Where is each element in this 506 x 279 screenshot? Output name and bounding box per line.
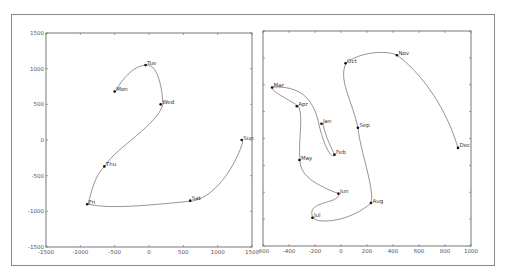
right-point-label: Mar bbox=[274, 82, 285, 88]
right-point-label: Aug bbox=[372, 198, 383, 205]
right-x-tick-label: 1000 bbox=[464, 248, 478, 254]
left-y-tick-label: 1500 bbox=[30, 30, 44, 36]
left-point-label: Fri bbox=[89, 199, 96, 205]
left-data-points: MonTueWedThuFriSatSun bbox=[86, 60, 254, 206]
left-point-label: Wed bbox=[162, 99, 174, 105]
right-point-label: Jul bbox=[313, 212, 321, 219]
left-x-tick-label: 1000 bbox=[211, 249, 225, 255]
left-y-tick-label: -1000 bbox=[28, 208, 44, 214]
right-x-tick-label: 400 bbox=[388, 248, 399, 254]
right-x-tick-label: -200 bbox=[309, 248, 322, 254]
left-y-tick-label: -500 bbox=[32, 173, 45, 179]
left-point-label: Sun bbox=[243, 135, 254, 141]
left-week-curve bbox=[88, 65, 243, 207]
right-point-label: Feb bbox=[336, 149, 346, 155]
right-x-tick-label: 800 bbox=[440, 248, 451, 254]
right-x-tick-label: -600 bbox=[257, 248, 270, 254]
left-y-tick-label: -1500 bbox=[28, 244, 44, 250]
right-point-label: Jan bbox=[322, 118, 332, 125]
left-x-tick-label: 0 bbox=[147, 249, 151, 255]
right-month-curve bbox=[272, 52, 458, 221]
left-point-label: Sat bbox=[192, 195, 202, 201]
left-y-tick-label: 500 bbox=[34, 101, 45, 107]
right-point-label: Sep bbox=[359, 122, 370, 129]
left-point-label: Tue bbox=[146, 60, 157, 66]
right-plot-area bbox=[263, 31, 471, 246]
right-data-points: JanFebMarAprMayJunJulAugSepOctNovDec bbox=[271, 50, 470, 220]
right-x-tick-label: 0 bbox=[339, 248, 343, 254]
left-x-tick-label: -1000 bbox=[72, 249, 88, 255]
right-point-label: Apr bbox=[298, 101, 308, 108]
left-y-tick-label: 1000 bbox=[30, 66, 44, 72]
left-axis-ticks: -1500-1000-500050010001500150010005000-5… bbox=[28, 30, 259, 255]
right-point-label: May bbox=[301, 155, 313, 162]
left-x-tick-label: -500 bbox=[108, 249, 121, 255]
right-x-tick-label: 200 bbox=[362, 248, 373, 254]
right-x-tick-label: 600 bbox=[414, 248, 425, 254]
left-point-label: Thu bbox=[105, 161, 116, 167]
right-point-label: Nov bbox=[398, 50, 409, 56]
right-x-tick-label: -400 bbox=[283, 248, 296, 254]
right-point-label: Jun bbox=[339, 188, 349, 195]
left-y-tick-label: 0 bbox=[41, 137, 45, 143]
left-x-tick-label: 500 bbox=[178, 249, 189, 255]
chart-canvas: -1500-1000-500050010001500150010005000-5… bbox=[0, 0, 506, 279]
right-axis-ticks: -600-400-20002004006008001000 bbox=[257, 31, 479, 254]
left-point-label: Mon bbox=[116, 86, 128, 92]
right-point-label: Oct bbox=[347, 58, 357, 64]
right-point-label: Dec bbox=[460, 142, 471, 148]
